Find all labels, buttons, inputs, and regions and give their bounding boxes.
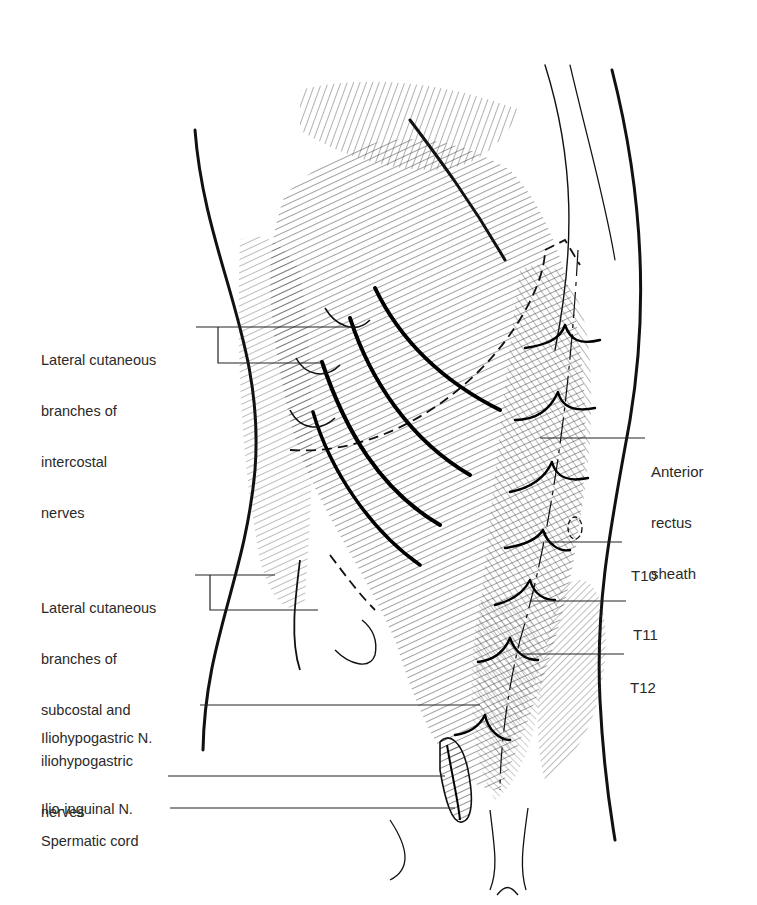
label-spermatic-cord: Spermatic cord xyxy=(41,799,139,867)
label-line: intercostal xyxy=(41,454,156,471)
label-line: T11 xyxy=(633,626,658,643)
label-line: T12 xyxy=(630,679,656,696)
label-line: branches of xyxy=(41,403,156,420)
label-lateral-cutaneous-intercostal: Lateral cutaneous branches of intercosta… xyxy=(41,318,156,539)
label-line: Anterior xyxy=(651,463,704,480)
label-line: rectus xyxy=(651,514,704,531)
label-iliohypogastric-nerve: Iliohypogastric N. xyxy=(41,696,152,764)
label-line: T10 xyxy=(631,567,657,584)
label-line: branches of xyxy=(41,651,156,668)
label-line: Iliohypogastric N. xyxy=(41,730,152,747)
label-t12: T12 xyxy=(630,645,656,713)
label-t10: T10 xyxy=(631,533,657,601)
label-line: Spermatic cord xyxy=(41,833,139,850)
label-line: sheath xyxy=(651,565,704,582)
label-anterior-rectus-sheath: Anterior rectus sheath xyxy=(651,429,704,599)
label-line: Lateral cutaneous xyxy=(41,352,156,369)
label-line: nerves xyxy=(41,505,156,522)
label-line: Lateral cutaneous xyxy=(41,600,156,617)
